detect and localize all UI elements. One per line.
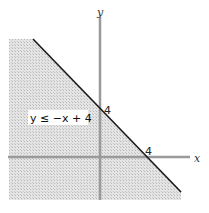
y-intercept-label: 4 bbox=[104, 104, 111, 117]
inequality-graph: y x 4 4 y ≤ −x + 4 bbox=[0, 0, 209, 213]
y-axis-label: y bbox=[96, 6, 104, 19]
x-intercept-label: 4 bbox=[145, 145, 152, 158]
x-axis-label: x bbox=[194, 152, 201, 165]
inequality-label: y ≤ −x + 4 bbox=[30, 112, 92, 125]
